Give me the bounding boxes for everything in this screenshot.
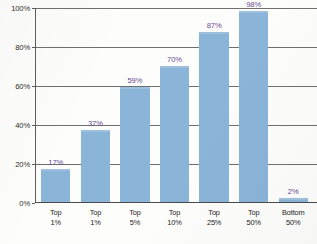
y-axis-tick-label: 40% [15, 121, 30, 130]
bar[interactable]: 70% [160, 66, 189, 203]
y-axis-tick-label: 60% [15, 82, 30, 91]
x-axis-category-label-line: Top [115, 208, 155, 218]
x-axis-category-labels: Top1%Top1%Top5%Top10%Top25%Top50%Bottom5… [36, 208, 313, 227]
y-axis-tick-label: 0% [19, 199, 30, 208]
bar[interactable]: 87% [199, 32, 228, 202]
x-axis-category-label-line: Top [155, 208, 195, 218]
y-axis-tick-label: 80% [15, 43, 30, 52]
x-axis-category-label-line: Top [234, 208, 274, 218]
y-axis-tick-label: 100% [11, 4, 30, 13]
bar-slot: 87% [194, 7, 234, 202]
bar-series: 17%37%59%70%87%98%2% [36, 7, 313, 202]
x-axis-category-label-line: 50% [273, 218, 313, 228]
bar[interactable]: 37% [81, 130, 110, 202]
bar[interactable]: 59% [120, 87, 149, 202]
x-axis-category-label: Bottom50% [273, 208, 313, 227]
bar-value-label: 17% [48, 158, 63, 167]
bar-value-label: 37% [88, 119, 103, 128]
x-axis-category-label: Top10% [155, 208, 195, 227]
plot-area: 17%37%59%70%87%98%2% [35, 8, 317, 203]
bar-value-label: 70% [167, 55, 182, 64]
bar-slot: 17% [36, 7, 76, 202]
x-axis-category-label: Top50% [234, 208, 274, 227]
bar-value-label: 59% [127, 76, 142, 85]
y-axis-tick-labels: 0%20%40%60%80%100% [0, 0, 33, 244]
x-axis-category-label-line: 1% [76, 218, 116, 228]
bar-slot: 59% [115, 7, 155, 202]
x-axis-category-label: Top25% [194, 208, 234, 227]
bar-slot: 70% [155, 7, 195, 202]
x-axis-category-label-line: Top [194, 208, 234, 218]
x-axis-line [35, 202, 317, 203]
bar[interactable]: 98% [239, 11, 268, 202]
bar-slot: 37% [76, 7, 116, 202]
x-axis-category-label-line: 10% [155, 218, 195, 228]
bar-slot: 2% [273, 7, 313, 202]
x-axis-category-label-line: Bottom [273, 208, 313, 218]
x-axis-category-label-line: Top [76, 208, 116, 218]
x-axis-category-label-line: 50% [234, 218, 274, 228]
x-axis-category-label-line: 5% [115, 218, 155, 228]
y-axis-line [35, 8, 36, 203]
x-axis-category-label: Top1% [76, 208, 116, 227]
x-axis-category-label: Top5% [115, 208, 155, 227]
y-axis-tick-label: 20% [15, 160, 30, 169]
bar-slot: 98% [234, 7, 274, 202]
x-axis-category-label-line: 25% [194, 218, 234, 228]
bar-value-label: 98% [246, 0, 261, 9]
x-axis-category-label-line: Top [36, 208, 76, 218]
bar-value-label: 2% [288, 187, 299, 196]
x-axis-category-label-line: 1% [36, 218, 76, 228]
bar-chart-figure: 0%20%40%60%80%100% 17%37%59%70%87%98%2% … [0, 0, 317, 244]
bar-value-label: 87% [207, 21, 222, 30]
bar[interactable]: 17% [41, 169, 70, 202]
x-axis-category-label: Top1% [36, 208, 76, 227]
